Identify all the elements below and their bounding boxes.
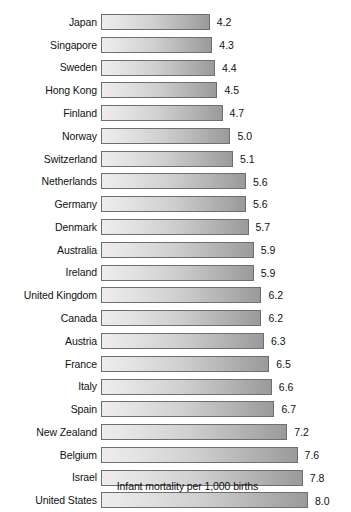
category-label: Canada [0,313,101,324]
category-label: Denmark [0,222,101,233]
bar [101,265,254,281]
chart-row: Netherlands5.6 [0,171,351,191]
category-label: Netherlands [0,176,101,187]
category-label: Finland [0,108,101,119]
bar [101,447,298,463]
chart-row: United States8.0 [0,490,351,510]
category-label: Norway [0,131,101,142]
bar [101,14,210,30]
bar-track: 5.6 [101,194,351,214]
bar-value-label: 5.7 [256,222,271,233]
category-label: Ireland [0,267,101,278]
chart-row: Germany5.6 [0,194,351,214]
category-label: United States [0,495,101,506]
bar [101,37,212,53]
chart-row: Italy6.6 [0,377,351,397]
bar [101,401,274,417]
bar-value-label: 6.2 [268,313,283,324]
bar [101,82,217,98]
bar [101,219,249,235]
bar-track: 6.6 [101,377,351,397]
bar-track: 5.6 [101,171,351,191]
bar-track: 6.2 [101,285,351,305]
bar-track: 5.9 [101,240,351,260]
bar-value-label: 5.6 [253,199,268,210]
bar-track: 4.5 [101,80,351,100]
category-label: Japan [0,17,101,28]
bar-value-label: 7.6 [305,450,320,461]
chart-row: Ireland5.9 [0,263,351,283]
bar-track: 4.7 [101,103,351,123]
category-label: Germany [0,199,101,210]
bar-value-label: 6.6 [279,381,294,392]
chart-row: New Zealand7.2 [0,422,351,442]
bar-value-label: 4.2 [217,17,232,28]
bar-track: 7.6 [101,445,351,465]
bar-value-label: 5.0 [237,131,252,142]
bar-track: 4.4 [101,58,351,78]
bar [101,105,223,121]
chart-plot-area: Japan4.2Singapore4.3Sweden4.4Hong Kong4.… [0,12,351,512]
chart-row: Belgium7.6 [0,445,351,465]
chart-row: Spain6.7 [0,399,351,419]
bar [101,173,246,189]
bar [101,356,269,372]
category-label: Hong Kong [0,85,101,96]
category-label: United Kingdom [0,290,101,301]
bar-track: 8.0 [101,490,351,510]
chart-row: United Kingdom6.2 [0,285,351,305]
bar-track: 6.7 [101,399,351,419]
bar [101,60,215,76]
bar-track: 6.2 [101,308,351,328]
chart-row: Singapore4.3 [0,35,351,55]
bar-value-label: 4.7 [230,108,245,119]
bar [101,151,233,167]
bar-value-label: 5.9 [261,245,276,256]
bar-track: 5.7 [101,217,351,237]
bar [101,128,230,144]
x-axis-caption: Infant mortality per 1,000 births [0,480,351,492]
bar [101,196,246,212]
category-label: New Zealand [0,427,101,438]
category-label: Belgium [0,450,101,461]
category-label: Australia [0,245,101,256]
bar-track: 5.0 [101,126,351,146]
chart-row: Hong Kong4.5 [0,80,351,100]
bar-track: 5.1 [101,149,351,169]
category-label: Spain [0,404,101,415]
category-label: Switzerland [0,154,101,165]
bar-value-label: 7.2 [294,427,309,438]
bar-value-label: 6.3 [271,336,286,347]
bar [101,287,261,303]
bar-track: 5.9 [101,263,351,283]
category-label: Singapore [0,40,101,51]
chart-row: Australia5.9 [0,240,351,260]
bar-track: 6.3 [101,331,351,351]
category-label: Austria [0,336,101,347]
bar-value-label: 5.1 [240,154,255,165]
bar-value-label: 6.2 [268,290,283,301]
bar-value-label: 4.3 [219,40,234,51]
chart-row: Switzerland5.1 [0,149,351,169]
bar-value-label: 6.5 [276,359,291,370]
bar [101,492,308,508]
bar-value-label: 8.0 [315,495,330,506]
bar [101,333,264,349]
bar [101,310,261,326]
bar-track: 4.2 [101,12,351,32]
bar-track: 7.2 [101,422,351,442]
category-label: France [0,359,101,370]
bar-value-label: 4.4 [222,62,237,73]
category-label: Sweden [0,62,101,73]
chart-row: Norway5.0 [0,126,351,146]
bar-value-label: 5.9 [261,267,276,278]
bar [101,242,254,258]
chart-row: Denmark5.7 [0,217,351,237]
bar-value-label: 5.6 [253,176,268,187]
chart-row: Finland4.7 [0,103,351,123]
bar-track: 4.3 [101,35,351,55]
bar [101,379,272,395]
chart-row: Sweden4.4 [0,58,351,78]
chart-row: Austria6.3 [0,331,351,351]
